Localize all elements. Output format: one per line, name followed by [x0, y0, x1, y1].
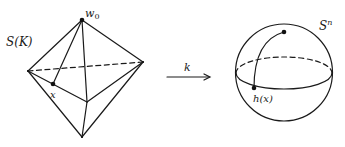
equator-back-dashed — [236, 57, 332, 73]
edge-top-front — [82, 20, 87, 102]
map-arrow — [167, 74, 210, 80]
octahedron — [27, 18, 144, 138]
figure: S(K) w0 x k Sn h(x) — [0, 0, 345, 147]
vertex-w0-dot — [80, 18, 85, 23]
label-x: x — [50, 89, 56, 100]
point-x-dot — [51, 82, 56, 87]
sphere — [236, 24, 333, 121]
vertex-left — [27, 70, 29, 72]
equator-front — [236, 73, 332, 89]
label-S-n: Sn — [319, 18, 332, 33]
vertex-bottom — [81, 136, 83, 138]
edge-top-right — [82, 20, 143, 62]
diagram-svg: S(K) w0 x k Sn h(x) — [0, 0, 345, 147]
label-h-of-x: h(x) — [253, 93, 273, 104]
label-w0: w0 — [85, 7, 100, 21]
label-S-of-K: S(K) — [6, 35, 33, 49]
sphere-outline — [236, 24, 333, 121]
vertex-right — [142, 61, 144, 63]
edge-top-left — [28, 20, 82, 71]
point-hx-dot — [252, 86, 257, 91]
label-k: k — [184, 61, 191, 74]
edge-left-front — [28, 71, 87, 102]
path-w0-to-x — [53, 20, 82, 84]
north-point-dot — [282, 30, 287, 35]
